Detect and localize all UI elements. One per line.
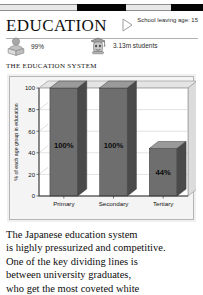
svg-text:100%: 100% <box>54 141 74 150</box>
body-line: who get the most coveted white <box>6 282 199 295</box>
stat-students: 3.13m students <box>88 35 157 56</box>
body-line: One of the key dividing lines is <box>6 255 199 268</box>
person-reading-book-icon <box>6 36 26 57</box>
stat-literacy-value: 99% <box>31 43 44 50</box>
stats-row: 99% 3.13m students <box>6 36 198 58</box>
body-line: between university graduates, <box>6 268 199 281</box>
svg-text:40: 40 <box>28 150 35 156</box>
body-line: is highly pressurized and competitive. <box>6 241 199 254</box>
strip-segment-dark-1 <box>77 4 126 11</box>
svg-text:80: 80 <box>28 107 35 113</box>
strip-segment-light-2 <box>126 4 171 11</box>
article-body-text: The Japanese education system is highly … <box>6 228 199 295</box>
svg-text:100: 100 <box>25 85 36 91</box>
stat-literacy: 99% <box>6 36 44 57</box>
body-line: The Japanese education system <box>6 228 199 241</box>
strip-segment-dark-2 <box>171 4 203 11</box>
svg-text:100%: 100% <box>104 141 124 150</box>
decorative-top-rule <box>0 4 203 11</box>
svg-text:Tertiary: Tertiary <box>153 200 174 207</box>
svg-text:44%: 44% <box>156 168 171 177</box>
svg-text:60: 60 <box>28 129 35 135</box>
education-bar-chart: 020406080100% of each age group in educa… <box>7 74 196 222</box>
svg-text:Primary: Primary <box>53 200 75 207</box>
triangle-right-icon <box>122 18 133 32</box>
chart-title: THE EDUCATION SYSTEM <box>6 62 97 70</box>
school-leaving-block: School leaving age: 15 <box>122 16 198 32</box>
svg-text:20: 20 <box>28 172 35 178</box>
school-leaving-label: School leaving age: 15 <box>137 17 198 25</box>
svg-text:Secondary: Secondary <box>99 200 129 207</box>
graduate-mortarboard-icon <box>88 35 108 56</box>
svg-text:% of each age group in educati: % of each age group in education <box>13 103 19 180</box>
stat-students-value: 3.13m students <box>113 42 157 49</box>
page-title: EDUCATION <box>6 16 107 35</box>
strip-segment-light-1 <box>0 4 77 11</box>
